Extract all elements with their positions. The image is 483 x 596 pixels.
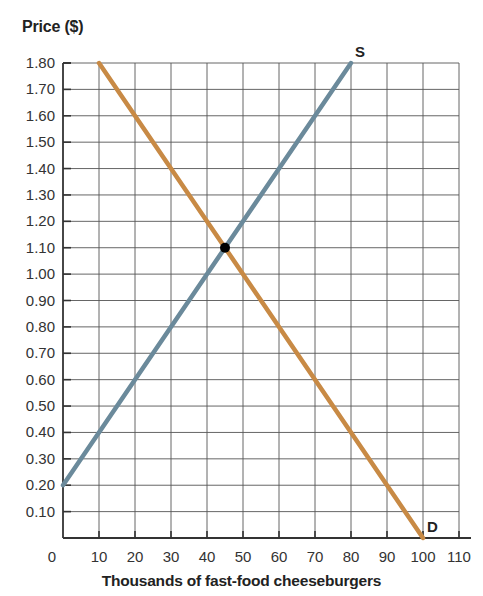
y-tick-label: 0.40 <box>26 423 55 440</box>
y-tick-label: 1.30 <box>26 186 55 203</box>
y-tick-label: 1.10 <box>26 239 55 256</box>
y-tick-label: 0.50 <box>26 397 55 414</box>
y-tick-label: 0.10 <box>26 503 55 520</box>
y-tick-label: 0.90 <box>26 292 55 309</box>
y-tick-label: 1.80 <box>26 54 55 71</box>
demand-label: D <box>427 518 438 535</box>
x-tick-label: 10 <box>91 548 108 565</box>
x-tick-label: 40 <box>199 548 216 565</box>
y-tick-label: 1.00 <box>26 265 55 282</box>
y-tick-label: 1.70 <box>26 80 55 97</box>
x-tick-label: 60 <box>271 548 288 565</box>
y-tick-label: 0.80 <box>26 318 55 335</box>
x-tick-label: 50 <box>235 548 252 565</box>
x-tick-label: 30 <box>163 548 180 565</box>
x-tick-label: 20 <box>127 548 144 565</box>
x-axis-ticks: 0102030405060708090100110 <box>48 531 471 565</box>
x-tick-label: 100 <box>410 548 435 565</box>
x-tick-label: 90 <box>379 548 396 565</box>
x-tick-label: 110 <box>447 548 471 565</box>
y-tick-label: 1.50 <box>26 133 55 150</box>
y-tick-label: 1.20 <box>26 212 55 229</box>
y-tick-label: 0.70 <box>26 344 55 361</box>
supply-label: S <box>355 43 365 60</box>
y-axis-ticks: 0.100.200.300.400.500.600.700.800.901.00… <box>26 54 71 520</box>
y-tick-label: 1.60 <box>26 107 55 124</box>
y-tick-label: 1.40 <box>26 160 55 177</box>
equilibrium-point <box>220 243 230 253</box>
x-tick-label: 70 <box>307 548 324 565</box>
supply-demand-chart: 0.100.200.300.400.500.600.700.800.901.00… <box>0 0 483 596</box>
y-tick-label: 0.60 <box>26 371 55 388</box>
y-tick-label: 0.30 <box>26 450 55 467</box>
x-tick-label: 0 <box>48 548 56 565</box>
x-tick-label: 80 <box>343 548 360 565</box>
y-tick-label: 0.20 <box>26 476 55 493</box>
